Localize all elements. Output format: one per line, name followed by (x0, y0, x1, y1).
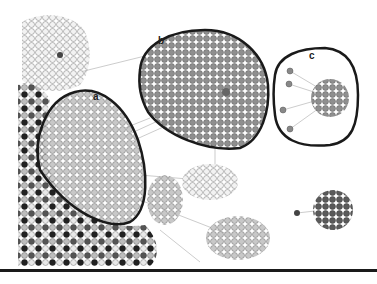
right-isolated-dark-cluster (294, 190, 353, 230)
cluster-c-label: c (309, 51, 315, 61)
bottom-center-light-star (182, 164, 238, 200)
cluster-a-label: a (93, 92, 99, 102)
network-diagram (0, 0, 377, 284)
cluster-c (274, 48, 359, 146)
bottom-rule (0, 269, 377, 272)
cluster-b-label: b (158, 36, 164, 46)
cluster-b (139, 30, 268, 149)
top-left-light-cluster (22, 15, 90, 91)
